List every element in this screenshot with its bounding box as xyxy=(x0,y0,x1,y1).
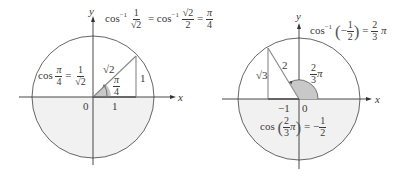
left-y-axis-label: y xyxy=(89,6,94,17)
right-x-axis-label: x xyxy=(375,94,380,105)
right-tick-label: −1 xyxy=(278,103,290,114)
left-x-axis-arrow-icon xyxy=(170,95,176,99)
left-origin-label: 0 xyxy=(83,101,89,112)
right-y-axis-arrow-icon xyxy=(297,23,301,29)
right-cos-equation: cos (23π) = −12 xyxy=(260,116,326,138)
left-title-equation: cos−1 1√2 = cos−1 √22 = π4 xyxy=(105,8,213,30)
left-tick-label: 1 xyxy=(112,101,118,112)
right-opposite-label: √3 xyxy=(256,70,268,81)
left-angle-label: π4 xyxy=(113,75,120,97)
right-hypotenuse xyxy=(268,48,299,99)
right-hypotenuse-label: 2 xyxy=(282,60,288,71)
right-x-axis-arrow-icon xyxy=(366,97,372,101)
right-angle-label: 23π xyxy=(310,63,323,85)
left-unit-circle-figure xyxy=(19,16,176,165)
left-cos-equation: cos π4 = 1√2 xyxy=(38,65,87,87)
left-opposite-label: 1 xyxy=(140,73,146,84)
right-unit-circle-figure xyxy=(222,23,372,169)
right-y-axis-label: y xyxy=(296,11,301,22)
right-origin-label: 0 xyxy=(302,103,308,114)
left-hypotenuse-label: √2 xyxy=(103,64,115,75)
left-x-axis-label: x xyxy=(178,92,183,103)
right-title-equation: cos−1 (−12) = 23 π xyxy=(310,20,386,42)
